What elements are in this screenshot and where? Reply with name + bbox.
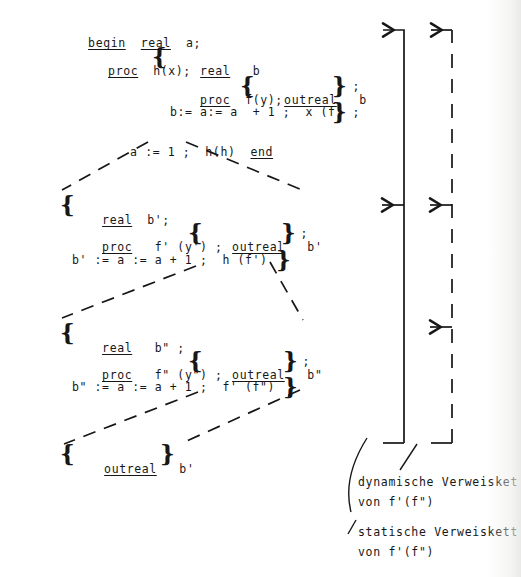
static-chain-leader [400,444,417,470]
close-brace-record-1: } [276,247,291,270]
keyword-real-b-dprime: real [102,341,132,355]
code-line-b-assign: b:= a:= a + 1 ; x (f) [170,105,343,119]
keyword-real-b: real [200,64,230,78]
keyword-outreal-final: outreal [104,462,157,476]
keyword-proc: proc [108,64,138,78]
decl-a: a; [171,36,201,50]
open-brace-record-3: { [60,441,75,464]
open-brace-h-body: { [152,44,167,67]
static-chain-dashed-path [430,30,452,443]
close-brace-record-3: } [160,441,175,464]
dynamic-chain-label-line2: von f'(f") [358,495,434,509]
dynamic-chain-solid-path [382,30,404,443]
keyword-end: end [251,145,274,159]
stmt-a-assign: a := 1 ; h(h) [130,145,250,159]
decl-b-prime: b'; [132,213,170,227]
code-line-a-assign-call-h: a := 1 ; h(h) end [100,131,273,173]
figure-canvas: begin real a; proc h(x); { real b proc f… [0,0,521,577]
code-semicolon-f: ; [345,79,360,93]
static-chain-leader-lower [348,520,356,534]
code-semicolon-f-dprime: ; [295,354,310,368]
scan-edge-shading [487,0,521,577]
keyword-proc-f-prime: proc [102,240,132,254]
connector-record2-to-record3-left [64,392,198,444]
decl-b-dprime: b" ; [132,341,185,355]
close-brace-record-2: } [283,374,298,397]
code-semicolon-f-prime: ; [293,226,308,240]
keyword-real-b-prime: real [102,213,132,227]
connector-record2-to-record3-right [180,390,300,444]
code-line-b-dprime-assign: b" := a := a + 1 ; f' (f") [72,380,275,394]
keyword-begin: begin [88,36,126,50]
connector-record1-to-record2-left [62,266,196,318]
open-brace-f-dprime-body: { [188,348,203,371]
code-semicolon-h: ; [345,105,360,119]
spacer-1 [126,36,141,50]
code-line-outreal-b-prime-final: outreal b' [74,448,194,490]
static-chain-label-line2: von f'(f") [358,545,434,559]
code-line-b-prime-assign: b' := a := a + 1 ; h (f') [72,253,268,267]
open-brace-f-prime-body: { [188,220,203,243]
open-brace-f-body: { [240,73,255,96]
